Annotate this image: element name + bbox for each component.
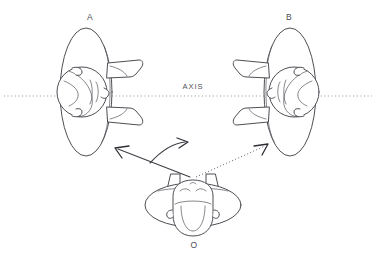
subject-o-group: O — [145, 174, 241, 250]
arrows-group — [115, 138, 268, 177]
subject-b-group: B — [233, 12, 319, 156]
subject-b-head — [269, 67, 319, 117]
axis-label: AXIS — [183, 82, 204, 91]
rotation-axis-diagram: AXIS — [0, 0, 376, 262]
subject-b-label: B — [286, 12, 292, 22]
subject-o-right-ear — [213, 210, 219, 218]
subject-o-head — [173, 180, 213, 236]
subject-o-label: O — [191, 240, 198, 250]
subject-a-group: A — [57, 12, 143, 156]
arrow-to-a-shaft — [118, 149, 190, 177]
diagram-canvas: AXIS — [0, 0, 376, 262]
subject-b-upper-arm — [233, 60, 269, 78]
subject-a-head — [57, 67, 107, 117]
subject-a-label: A — [87, 12, 93, 22]
subject-a-upper-arm — [107, 60, 143, 78]
subject-a-lower-arm — [107, 107, 143, 125]
rotation-arc-shaft — [150, 142, 185, 163]
subject-o-left-ear — [167, 210, 173, 218]
subject-b-lower-arm — [233, 107, 269, 125]
arrow-to-b-shaft — [196, 146, 265, 177]
